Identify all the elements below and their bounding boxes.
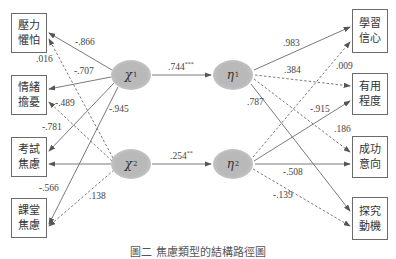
- box-class-anxiety: 課堂 焦慮: [11, 198, 47, 238]
- node-subscript: 2: [133, 160, 137, 168]
- box-emotional-worry: 情緒 擔憂: [11, 75, 47, 115]
- loading-label: -.781: [42, 122, 62, 132]
- box-label: 有用: [359, 79, 381, 94]
- box-label: 情緒: [18, 80, 40, 95]
- box-learning-confidence: 學習 信心: [352, 9, 388, 53]
- box-label: 學習: [359, 16, 381, 31]
- box-usefulness: 有用 程度: [352, 73, 388, 115]
- box-label: 意向: [359, 157, 381, 172]
- latent-chi1: χ1: [111, 60, 151, 90]
- box-label: 課堂: [18, 203, 40, 218]
- node-symbol: η: [227, 157, 234, 171]
- loading-label: .384: [284, 65, 301, 75]
- box-exploration-motive: 探究 動機: [352, 197, 388, 240]
- loading-label: .186: [334, 124, 351, 134]
- loading-label: -.139: [273, 190, 293, 200]
- box-success-intention: 成功 意向: [352, 136, 388, 178]
- loading-label: .787: [247, 97, 264, 107]
- latent-chi2: χ2: [111, 149, 151, 179]
- path-label-chi2-eta2: .254**: [170, 150, 193, 161]
- loading-label: -.508: [283, 167, 303, 177]
- node-subscript: 1: [133, 71, 137, 79]
- significance-marker: ***: [185, 61, 194, 67]
- loading-label: -.866: [75, 37, 95, 47]
- box-test-anxiety: 考試 焦慮: [11, 137, 47, 177]
- box-label: 焦慮: [18, 157, 40, 172]
- significance-marker: **: [187, 150, 193, 156]
- loading-label: -.915: [310, 104, 330, 114]
- node-symbol: χ: [125, 68, 132, 82]
- box-label: 擔憂: [18, 95, 40, 110]
- box-label: 懼怕: [18, 33, 40, 48]
- loading-label: .138: [89, 191, 106, 201]
- loading-label: .983: [283, 38, 300, 48]
- box-label: 焦慮: [18, 218, 40, 233]
- box-label: 壓力: [18, 18, 40, 33]
- path-label-chi1-eta1: .744***: [168, 61, 194, 72]
- loading-label: .009: [336, 61, 353, 71]
- path-value: .254: [170, 151, 187, 161]
- loading-label: -.566: [39, 183, 59, 193]
- loading-label: -.945: [109, 104, 129, 114]
- box-label: 信心: [359, 31, 381, 46]
- latent-eta1: η1: [213, 60, 253, 90]
- node-subscript: 2: [235, 160, 239, 168]
- box-label: 動機: [359, 219, 381, 234]
- box-label: 成功: [359, 142, 381, 157]
- box-stress-fear: 壓力 懼怕: [11, 13, 47, 53]
- node-symbol: χ: [125, 157, 132, 171]
- latent-eta2: η2: [213, 149, 253, 179]
- box-label: 程度: [359, 94, 381, 109]
- node-subscript: 1: [235, 71, 239, 79]
- loading-label: .016: [36, 54, 53, 64]
- box-label: 考試: [18, 142, 40, 157]
- figure-caption: 圖二 焦慮類型的結構路徑圖: [0, 243, 396, 259]
- path-value: .744: [168, 62, 185, 72]
- box-label: 探究: [359, 204, 381, 219]
- loading-label: -.707: [74, 66, 94, 76]
- loading-label: -.489: [55, 98, 75, 108]
- node-symbol: η: [227, 68, 234, 82]
